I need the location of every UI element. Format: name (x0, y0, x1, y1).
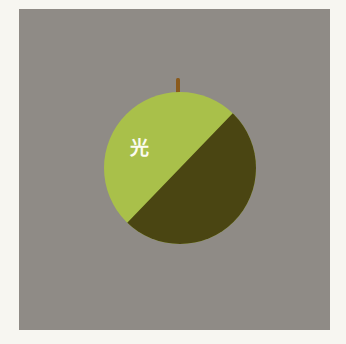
fruit-illustration: 光 (0, 0, 346, 344)
light-label: 光 (129, 137, 149, 159)
